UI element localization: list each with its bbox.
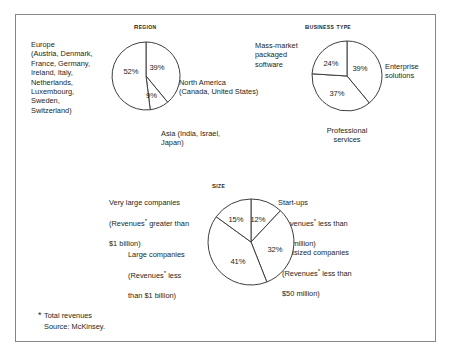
pie-chart-size: 12% 32% 41% 15% [207, 198, 295, 286]
pie-chart-business-type: 39% 37% 24% [311, 40, 383, 112]
size-label-midsized-line2: (Revenues* less than [282, 267, 402, 279]
region-label-europe: Europe (Austria, Denmark, France, German… [31, 40, 116, 115]
footnote-asterisk: * [38, 310, 42, 321]
size-label-midsized-line1: Midsized companies [282, 248, 402, 257]
very-large-qualifier: greater than [147, 220, 189, 229]
size-value-midsized: 32% [267, 245, 282, 254]
business-value-mass-market: 24% [323, 59, 338, 68]
very-large-revenues-word: (Revenues [109, 220, 145, 229]
chart-title-business-type: Business Type [305, 21, 351, 31]
startups-qualifier: less than [316, 220, 348, 229]
size-label-startups-line1: Start-ups [278, 198, 398, 207]
size-label-large-line3: than $1 billion) [128, 291, 218, 300]
large-qualifier: less [166, 272, 181, 281]
chart-title-region: Region [134, 21, 157, 31]
large-revenues-word: (Revenues [128, 272, 164, 281]
figure-frame: Region Europe (Austria, Denmark, France,… [15, 14, 436, 342]
size-label-large: Large companies (Revenues* less than $1 … [128, 241, 218, 309]
business-label-mass-market: Mass-market packaged software [255, 41, 318, 69]
region-label-north-america: North America (Canada, United States) [179, 78, 284, 97]
pie-chart-region: 39% 9% 52% [111, 41, 181, 111]
region-value-europe: 52% [123, 67, 138, 76]
size-value-very-large: 15% [228, 215, 243, 224]
size-label-midsized-line3: $50 million) [282, 289, 402, 298]
size-label-large-line2: (Revenues* less [128, 269, 218, 281]
size-label-large-line1: Large companies [128, 250, 218, 259]
midsized-qualifier: less than [320, 270, 352, 279]
business-value-professional: 37% [329, 89, 344, 98]
size-label-startups-line2: (Revenues* less than [278, 217, 398, 229]
region-value-asia: 9% [146, 91, 157, 100]
size-value-startups: 12% [250, 215, 265, 224]
business-label-enterprise: Enterprise solutions [385, 62, 445, 81]
business-value-enterprise: 39% [352, 64, 367, 73]
region-value-north-america: 39% [149, 63, 164, 72]
region-label-asia: Asia (India, Israel, Japan) [161, 129, 266, 148]
footnote-block: * Total revenues Source: McKinsey. [44, 311, 105, 332]
footnote-source: Source: McKinsey. [44, 322, 105, 333]
footnote-total-revenues: Total revenues [44, 311, 105, 322]
size-label-midsized: Midsized companies (Revenues* less than … [282, 239, 402, 307]
business-label-professional: Professional services [312, 126, 382, 145]
size-value-large: 41% [230, 257, 245, 266]
